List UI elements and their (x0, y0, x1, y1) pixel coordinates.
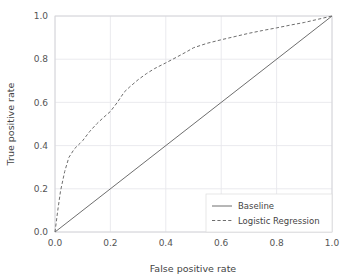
legend-label: Logistic Regression (238, 216, 320, 226)
y-tick-label: 0.0 (34, 227, 49, 237)
x-tick-label: 0.0 (48, 238, 63, 248)
chart-legend[interactable]: BaselineLogistic Regression (206, 194, 332, 232)
x-tick-label: 0.8 (269, 238, 284, 248)
x-axis-tick-labels: 0.00.20.40.60.81.0 (48, 238, 340, 248)
roc-curve-figure: 0.00.20.40.60.81.0 0.00.20.40.60.81.0 Fa… (0, 0, 349, 280)
y-tick-label: 0.8 (34, 54, 49, 64)
legend-box (206, 194, 332, 232)
y-tick-label: 1.0 (34, 11, 49, 21)
x-tick-label: 1.0 (325, 238, 340, 248)
y-tick-label: 0.4 (34, 141, 49, 151)
y-tick-label: 0.6 (34, 98, 49, 108)
y-axis-title: True positive rate (5, 82, 16, 166)
y-axis-tick-labels: 0.00.20.40.60.81.0 (34, 11, 49, 237)
x-tick-label: 0.6 (214, 238, 229, 248)
chart-canvas: 0.00.20.40.60.81.0 0.00.20.40.60.81.0 Fa… (0, 0, 349, 280)
x-axis-title: False positive rate (150, 263, 237, 274)
x-tick-label: 0.4 (159, 238, 174, 248)
legend-label: Baseline (238, 201, 274, 211)
y-tick-label: 0.2 (34, 184, 48, 194)
x-tick-label: 0.2 (103, 238, 117, 248)
